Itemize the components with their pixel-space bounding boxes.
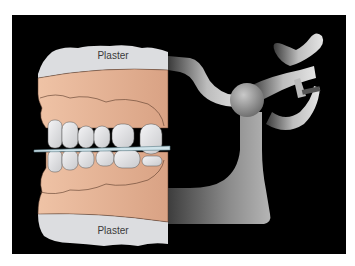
top-plaster-label: Plaster — [97, 50, 129, 61]
bottom-plaster-label: Plaster — [97, 225, 129, 236]
articulator-diagram: Plaster Plaster — [0, 0, 355, 266]
upper-gum — [38, 69, 168, 128]
hinge-knob — [230, 83, 264, 117]
